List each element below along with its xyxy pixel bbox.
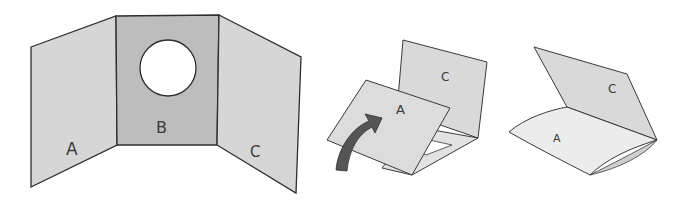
- panel-a-label: A: [396, 102, 405, 117]
- step1-open-card: A B C: [31, 15, 301, 193]
- panel-c-label: C: [250, 143, 260, 161]
- step3-folded-card: C A: [509, 47, 657, 175]
- step2-folding: C A: [327, 40, 487, 175]
- panel-c: [217, 15, 301, 193]
- panel-a-label: A: [553, 132, 561, 145]
- panel-c-label: C: [441, 70, 449, 84]
- folding-diagram: A B C C A C A: [0, 0, 687, 209]
- panel-a-label: A: [66, 139, 78, 159]
- panel-a: [31, 16, 117, 187]
- panel-b-label: B: [156, 118, 167, 137]
- panel-c-label: C: [608, 82, 616, 96]
- window-hole: [140, 40, 196, 96]
